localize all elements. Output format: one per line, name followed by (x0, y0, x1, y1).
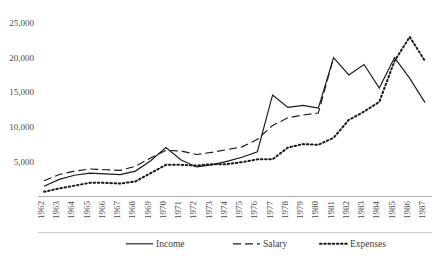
legend-label-salary[interactable]: Salary (263, 239, 288, 249)
x-tick-label: 1969 (143, 201, 153, 220)
x-tick-label: 1967 (112, 201, 122, 220)
x-tick-label: 1973 (204, 201, 214, 220)
y-tick-label: 25,000 (9, 18, 34, 28)
x-tick-label: 1977 (265, 201, 275, 220)
y-axis-tick-labels: 5,00010,00015,00020,00025,000 (9, 18, 34, 166)
y-tick-label: 10,000 (9, 122, 34, 132)
series-line-income (44, 58, 425, 187)
x-tick-label: 1981 (326, 201, 336, 219)
x-tick-label: 1970 (158, 201, 168, 220)
legend-label-expenses[interactable]: Expenses (350, 239, 386, 249)
x-tick-label: 1978 (280, 201, 290, 220)
x-tick-label: 1972 (188, 201, 198, 219)
chart-legend: IncomeSalaryExpenses (126, 239, 386, 249)
y-tick-label: 5,000 (14, 157, 35, 167)
x-tick-label: 1986 (402, 201, 412, 220)
x-tick-label: 1966 (97, 201, 107, 220)
x-tick-label: 1963 (51, 201, 61, 220)
x-tick-label: 1987 (417, 201, 427, 220)
x-tick-label: 1971 (173, 201, 183, 219)
line-chart: 5,00010,00015,00020,00025,000 1962196319… (0, 0, 439, 265)
legend-label-income[interactable]: Income (156, 239, 185, 249)
x-tick-label: 1962 (36, 201, 46, 219)
x-tick-label: 1964 (66, 201, 76, 220)
y-tick-label: 15,000 (9, 87, 34, 97)
series-paths (44, 37, 425, 192)
x-tick-label: 1965 (82, 201, 92, 220)
x-tick-label: 1985 (387, 201, 397, 220)
x-tick-label: 1984 (371, 201, 381, 220)
x-tick-label: 1968 (127, 201, 137, 220)
series-line-expenses (44, 37, 425, 192)
x-axis-tick-labels: 1962196319641965196619671968196919701971… (36, 201, 427, 220)
series-line-salary (44, 58, 334, 181)
chart-canvas: 5,00010,00015,00020,00025,000 1962196319… (0, 0, 439, 265)
x-tick-label: 1983 (356, 201, 366, 220)
x-tick-label: 1982 (341, 201, 351, 219)
x-tick-label: 1980 (310, 201, 320, 220)
x-tick-label: 1975 (234, 201, 244, 220)
x-tick-label: 1976 (249, 201, 259, 220)
x-tick-label: 1979 (295, 201, 305, 220)
x-tick-label: 1974 (219, 201, 229, 220)
y-tick-label: 20,000 (9, 53, 34, 63)
